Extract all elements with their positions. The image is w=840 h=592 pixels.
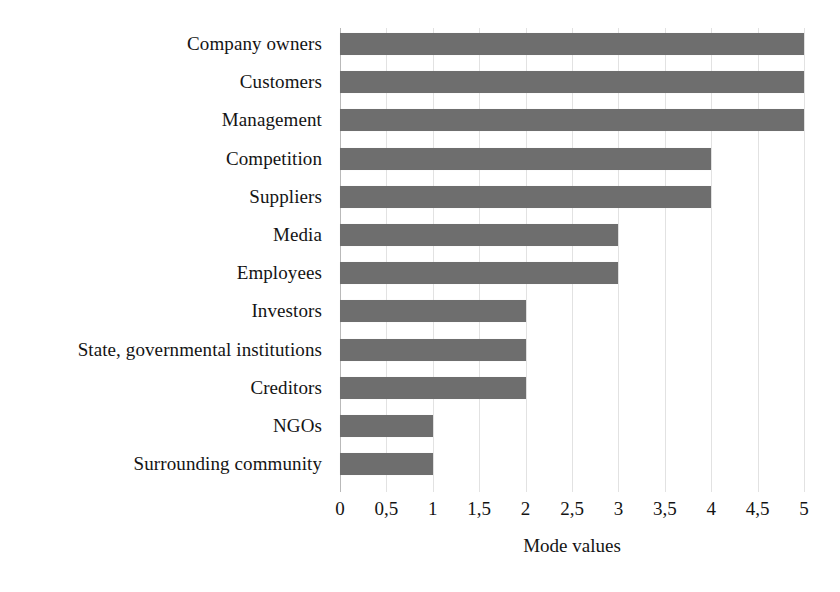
category-label: Employees (0, 262, 322, 284)
gridline (804, 28, 805, 492)
category-label: Investors (0, 300, 322, 322)
bar (340, 71, 804, 93)
bar (340, 224, 618, 246)
x-tick-label: 5 (799, 497, 809, 521)
x-tick-label: 2,5 (560, 497, 584, 521)
x-tick-label: 4 (706, 497, 716, 521)
x-tick-label: 4,5 (746, 497, 770, 521)
x-tick-label: 2 (521, 497, 531, 521)
bar (340, 148, 711, 170)
category-label: Media (0, 224, 322, 246)
x-axis-tick-labels: 00,511,522,533,544,55 (340, 497, 804, 523)
category-label: Creditors (0, 377, 322, 399)
x-tick-label: 0,5 (375, 497, 399, 521)
category-label: NGOs (0, 415, 322, 437)
category-label: Customers (0, 71, 322, 93)
bar-chart: Company ownersCustomersManagementCompeti… (0, 0, 840, 592)
bar (340, 300, 526, 322)
bar-series (340, 28, 804, 492)
bar (340, 415, 433, 437)
category-label: Suppliers (0, 186, 322, 208)
x-axis-title: Mode values (340, 534, 804, 558)
category-label: Surrounding community (0, 453, 322, 475)
bar (340, 33, 804, 55)
category-label: Competition (0, 148, 322, 170)
bar (340, 377, 526, 399)
x-tick-label: 1 (428, 497, 438, 521)
bar (340, 262, 618, 284)
category-label: State, governmental institutions (0, 339, 322, 361)
x-tick-label: 0 (335, 497, 345, 521)
bar (340, 453, 433, 475)
category-axis-labels: Company ownersCustomersManagementCompeti… (0, 28, 332, 492)
bar (340, 186, 711, 208)
bar (340, 109, 804, 131)
category-label: Company owners (0, 33, 322, 55)
bar (340, 339, 526, 361)
x-tick-label: 1,5 (467, 497, 491, 521)
x-tick-label: 3,5 (653, 497, 677, 521)
plot-area (340, 28, 804, 492)
category-label: Management (0, 109, 322, 131)
x-tick-label: 3 (614, 497, 624, 521)
